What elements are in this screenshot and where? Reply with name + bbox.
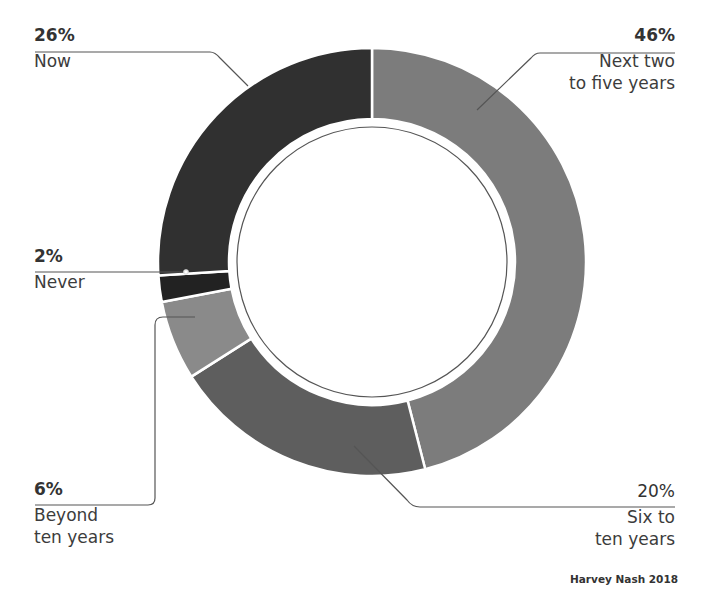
label-six: 20% Six to ten years bbox=[595, 480, 675, 550]
label-never-pct: 2% bbox=[34, 245, 85, 267]
source-credit: Harvey Nash 2018 bbox=[570, 573, 678, 585]
label-next: 46% Next two to five years bbox=[569, 24, 675, 94]
leader-never-dot bbox=[184, 270, 188, 274]
label-six-pct: 20% bbox=[595, 480, 675, 502]
label-beyond-pct: 6% bbox=[34, 478, 114, 500]
label-six-text: Six to ten years bbox=[595, 506, 675, 550]
label-beyond-text: Beyond ten years bbox=[34, 504, 114, 548]
label-next-pct: 46% bbox=[569, 24, 675, 46]
label-never: 2% Never bbox=[34, 245, 85, 293]
label-never-text: Never bbox=[34, 271, 85, 293]
label-now: 26% Now bbox=[34, 24, 75, 72]
label-now-pct: 26% bbox=[34, 24, 75, 46]
leader-beyond bbox=[35, 317, 195, 505]
label-now-text: Now bbox=[34, 50, 75, 72]
label-next-text: Next two to five years bbox=[569, 50, 675, 94]
segment-six-to-ten-years bbox=[191, 339, 425, 476]
inner-ring-line bbox=[237, 127, 507, 397]
donut-segments bbox=[158, 48, 586, 476]
segment-now bbox=[158, 48, 372, 275]
label-beyond: 6% Beyond ten years bbox=[34, 478, 114, 548]
